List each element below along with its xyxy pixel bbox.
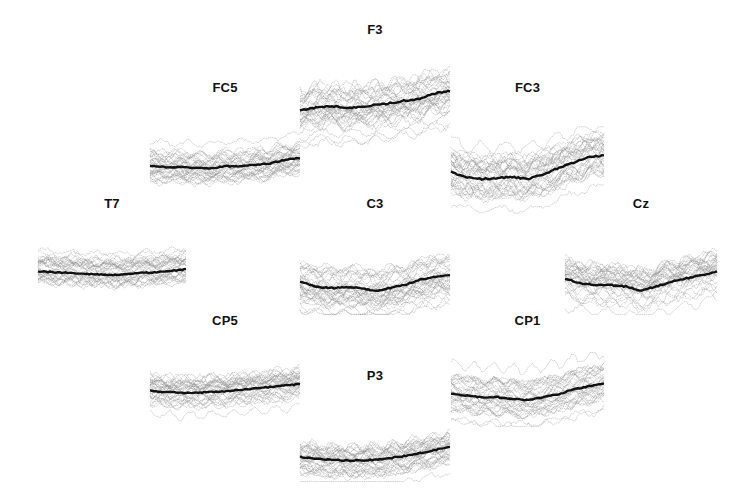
single-trial-trace bbox=[300, 69, 450, 98]
trace-plot bbox=[300, 408, 450, 483]
single-trial-trace bbox=[150, 403, 300, 421]
panel-fc5: FC5 bbox=[150, 80, 300, 195]
panel-f3: F3 bbox=[300, 22, 450, 152]
panel-title: P3 bbox=[300, 368, 450, 383]
trace-plot bbox=[451, 351, 604, 428]
panel-title: CP5 bbox=[150, 313, 300, 328]
panel-title: T7 bbox=[38, 196, 186, 211]
panel-title: Cz bbox=[565, 196, 717, 211]
single-trial-trace bbox=[451, 353, 604, 375]
trace-plot bbox=[150, 125, 300, 195]
panel-title: F3 bbox=[300, 22, 450, 37]
single-trial-trace bbox=[300, 254, 450, 277]
panel-c3: C3 bbox=[300, 196, 450, 316]
panel-title: C3 bbox=[300, 196, 450, 211]
single-trial-trace bbox=[300, 76, 450, 103]
single-trial-trace bbox=[451, 363, 604, 388]
single-trial-trace bbox=[150, 132, 300, 148]
trace-plot bbox=[38, 226, 186, 296]
panel-title: CP1 bbox=[451, 313, 604, 328]
trace-plot bbox=[150, 351, 300, 423]
panel-cp1: CP1 bbox=[451, 313, 604, 428]
trace-plot bbox=[300, 234, 450, 316]
single-trial-trace bbox=[300, 99, 450, 120]
trace-plot bbox=[565, 234, 717, 316]
single-trial-trace bbox=[300, 111, 450, 140]
panel-cz: Cz bbox=[565, 196, 717, 316]
panel-title: FC3 bbox=[451, 80, 604, 95]
single-trial-trace bbox=[565, 248, 717, 276]
panel-t7: T7 bbox=[38, 196, 186, 296]
panel-cp5: CP5 bbox=[150, 313, 300, 423]
single-trial-trace bbox=[565, 284, 717, 313]
single-trial-trace bbox=[300, 105, 450, 131]
panel-fc3: FC3 bbox=[451, 80, 604, 215]
panel-p3: P3 bbox=[300, 368, 450, 483]
single-trial-trace bbox=[565, 296, 717, 315]
panel-title: FC5 bbox=[150, 80, 300, 95]
trace-plot bbox=[300, 60, 450, 152]
